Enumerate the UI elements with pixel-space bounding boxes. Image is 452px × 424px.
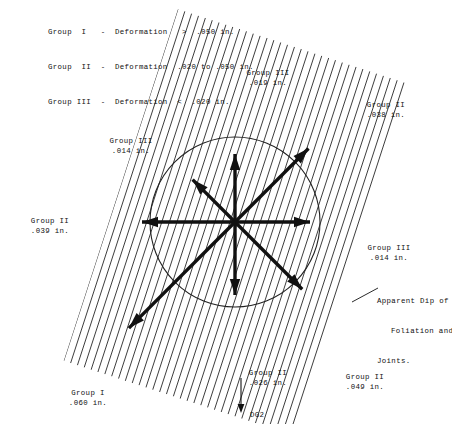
deformation-arrow [230,154,240,222]
vector-label: Group III.014 in. [91,136,171,156]
hatch-line [105,22,219,374]
vector-label: Group III.019 in. [228,68,308,88]
vector-label: Group II.049 in. [325,372,405,392]
vector-label-value: .039 in. [10,226,90,236]
vector-label-value: .060 in. [48,398,128,408]
vector-label-group: Group III [349,243,429,253]
hatch-line [194,51,308,403]
hatch-line [71,11,185,363]
vector-label-value: .038 in. [346,110,426,120]
vector-label-value: .026 in. [228,378,308,388]
vector-label-value: .014 in. [349,253,429,263]
hatch-line [64,9,178,361]
vector-label: Group II.026 in. [228,368,308,388]
apparent-dip-annotation: Apparent Dip of Foliation and Joints. [377,276,452,386]
vector-label-group: Group III [91,136,171,146]
hatch-line [77,13,191,365]
arrow-head [230,154,240,170]
vector-label: Group I.060 in. [48,388,128,408]
vector-label: Group III.014 in. [349,243,429,263]
hatch-line [166,42,280,394]
apparent-dip-leader-line [352,288,378,302]
hatch-line [228,62,342,414]
vector-label-value: .014 in. [91,146,171,156]
hatch-line [153,38,267,390]
station-label: DG2 [250,390,269,424]
hatch-line [201,54,315,406]
hatch-line [187,49,301,401]
arrow-head [294,217,310,227]
vector-label-group: Group III [228,68,308,78]
station-label-text: DG2 [250,410,269,420]
vector-label-group: Group II [325,372,405,382]
hatch-line [214,58,328,410]
vector-label: Group II.038 in. [346,100,426,120]
hatch-line [91,18,205,370]
hatch-line [160,40,274,392]
hatch-line [242,67,356,419]
vector-label-group: Group II [10,216,90,226]
apparent-dip-line-3: Joints. [377,356,452,366]
apparent-dip-line-2: Foliation and [377,326,452,336]
diagram-page: Group I - Deformation > .050 in. Group I… [0,0,452,424]
vector-label-group: Group I [48,388,128,398]
hatch-line [98,20,212,372]
vector-label-group: Group II [346,100,426,110]
vector-label-group: Group II [228,368,308,378]
hatch-line [112,25,226,377]
deformation-arrow [230,222,240,295]
vector-label: Group II.039 in. [10,216,90,236]
deformation-arrow [235,222,302,289]
vector-label-value: .019 in. [228,78,308,88]
vector-label-value: .049 in. [325,382,405,392]
apparent-dip-line-1: Apparent Dip of [377,296,452,306]
hatch-line [125,29,239,381]
